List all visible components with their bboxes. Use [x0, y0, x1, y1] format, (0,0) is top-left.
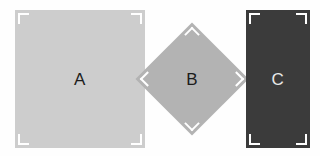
shape-b-label: B	[152, 39, 232, 119]
shape-a-square[interactable]: A	[15, 10, 145, 148]
shape-c-label: C	[246, 10, 310, 148]
shape-a-label: A	[15, 10, 145, 148]
shapes-canvas: A B C	[0, 0, 320, 156]
shape-b-diamond[interactable]: B	[152, 39, 232, 119]
shape-c-rectangle[interactable]: C	[246, 10, 310, 148]
